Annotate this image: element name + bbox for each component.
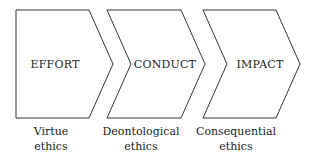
caption-line: ethics	[1, 139, 101, 154]
stage-label-impact: IMPACT	[215, 58, 305, 71]
caption-line: ethics	[186, 139, 286, 154]
caption-impact: Consequential ethics	[186, 124, 286, 154]
caption-line: Consequential	[186, 124, 286, 139]
caption-effort: Virtue ethics	[1, 124, 101, 154]
caption-line: Virtue	[1, 124, 101, 139]
stage-label-effort: EFFORT	[10, 58, 100, 71]
caption-line: Deontological	[91, 124, 191, 139]
caption-conduct: Deontological ethics	[91, 124, 191, 154]
stage-label-conduct: CONDUCT	[120, 58, 210, 71]
caption-line: ethics	[91, 139, 191, 154]
